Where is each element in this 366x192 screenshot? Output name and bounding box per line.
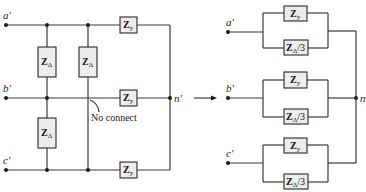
converted-impedance-a: ZΔ/3	[284, 40, 308, 55]
terminal-c-label: c'	[3, 154, 11, 166]
converted-impedance-b: ZΔ/3	[284, 109, 308, 124]
no-connect-annotation: No connect	[91, 112, 137, 123]
terminal-a-node	[226, 30, 230, 34]
terminal-b-node	[226, 96, 230, 100]
wye-impedance-b: Zy	[120, 90, 137, 106]
phase-a-group: a' Zy ZΔ/3	[226, 6, 356, 55]
junction-node	[45, 96, 49, 100]
terminal-b-label: b'	[3, 82, 12, 94]
junction-node	[45, 168, 49, 172]
terminal-b-node	[4, 96, 8, 100]
neutral-label-right: n	[360, 92, 366, 104]
wye-impedance-a: Zy	[120, 17, 137, 33]
terminal-a-node	[4, 23, 8, 27]
right-circuit: n a' Zy ZΔ/3	[226, 6, 366, 189]
converted-impedance-c: ZΔ/3	[284, 174, 308, 189]
terminal-c-label: c'	[226, 147, 234, 159]
delta-impedance-ca: ZΔ	[79, 47, 97, 77]
junction-node	[45, 23, 49, 27]
left-circuit: a' b' c' n' ZΔ ZΔ ZΔ Zy Zy Zy	[3, 9, 183, 178]
phase-c-group: c' Zy ZΔ/3	[226, 138, 356, 189]
delta-impedance-bc: ZΔ	[38, 118, 56, 148]
junction-node	[86, 23, 90, 27]
wye-impedance-a: Zy	[284, 6, 307, 21]
transform-arrow	[194, 96, 217, 101]
terminal-b-label: b'	[226, 82, 235, 94]
terminal-c-node	[4, 168, 8, 172]
neutral-node-left	[168, 96, 172, 100]
neutral-label-left: n'	[174, 92, 183, 104]
terminal-a-label: a'	[3, 9, 12, 21]
terminal-a-label: a'	[226, 16, 235, 28]
terminal-c-node	[226, 161, 230, 165]
junction-node	[86, 168, 90, 172]
phase-b-group: b' Zy ZΔ/3	[226, 72, 356, 124]
wye-impedance-c: Zy	[120, 162, 137, 178]
wye-impedance-b: Zy	[284, 72, 307, 88]
wye-impedance-c: Zy	[284, 138, 307, 153]
no-connect-pointer	[90, 100, 99, 112]
delta-wye-diagram: a' b' c' n' ZΔ ZΔ ZΔ Zy Zy Zy	[0, 0, 366, 192]
delta-impedance-ab: ZΔ	[38, 47, 56, 77]
